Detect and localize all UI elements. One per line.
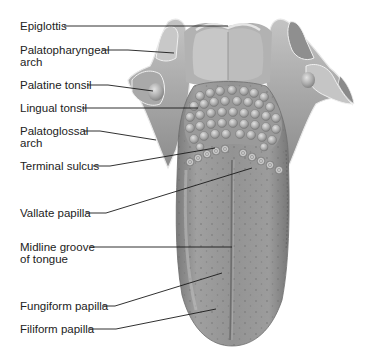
label-palatopharyngeal-arch-line2: arch — [20, 56, 110, 68]
label-filiform-papilla: Filiform papilla — [20, 323, 94, 335]
label-epiglottis: Epiglottis — [20, 20, 67, 32]
label-terminal-sulcus-text: Terminal sulcus — [20, 160, 99, 172]
label-filiform-papilla-text: Filiform papilla — [20, 323, 94, 335]
label-terminal-sulcus: Terminal sulcus — [20, 160, 99, 172]
tongue-anatomy-diagram: Epiglottis Palatopharyngeal arch Palatin… — [0, 0, 371, 361]
label-palatoglossal-arch-line1: Palatoglossal — [20, 125, 88, 137]
label-midline-groove-line2: of tongue — [20, 253, 95, 265]
label-fungiform-papilla-text: Fungiform papilla — [20, 300, 108, 312]
label-midline-groove: Midline groove of tongue — [20, 241, 95, 265]
label-vallate-papilla: Vallate papilla — [20, 207, 91, 219]
lingual-tonsil-bumps — [184, 86, 282, 152]
label-lingual-tonsil-text: Lingual tonsil — [20, 102, 87, 114]
label-palatopharyngeal-arch: Palatopharyngeal arch — [20, 44, 110, 68]
label-palatine-tonsil-text: Palatine tonsil — [20, 79, 92, 91]
leader-palatoglossal-arch — [83, 131, 156, 140]
label-midline-groove-line1: Midline groove — [20, 241, 95, 253]
label-vallate-papilla-text: Vallate papilla — [20, 207, 91, 219]
label-palatoglossal-arch: Palatoglossal arch — [20, 125, 88, 149]
epiglottis-region — [184, 23, 272, 87]
label-fungiform-papilla: Fungiform papilla — [20, 300, 108, 312]
label-epiglottis-text: Epiglottis — [20, 20, 67, 32]
label-palatopharyngeal-arch-line1: Palatopharyngeal — [20, 44, 110, 56]
label-palatine-tonsil: Palatine tonsil — [20, 79, 92, 91]
label-palatoglossal-arch-line2: arch — [20, 137, 88, 149]
label-lingual-tonsil: Lingual tonsil — [20, 102, 87, 114]
